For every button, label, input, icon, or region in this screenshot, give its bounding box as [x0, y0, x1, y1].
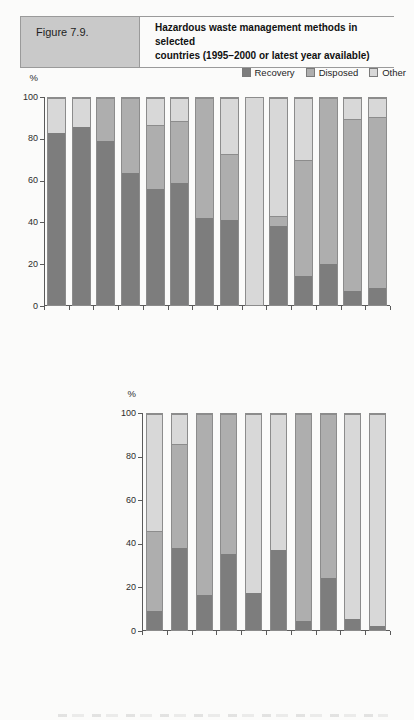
recovery-segment	[196, 218, 213, 305]
y-tick-mark	[40, 264, 44, 265]
cropped-text-remnant	[58, 714, 388, 717]
y-axis-unit-label: %	[110, 388, 136, 399]
y-tick-mark	[138, 587, 142, 588]
recovery-segment	[369, 288, 386, 305]
legend-item-disposed: Disposed	[306, 67, 359, 78]
x-tick-mark	[365, 306, 366, 310]
y-tick-label: 0	[12, 301, 38, 311]
recovery-swatch-icon	[242, 68, 251, 77]
disposed-segment	[97, 98, 114, 141]
y-tick-mark	[138, 413, 142, 414]
y-tick-label: 60	[110, 495, 136, 505]
other-segment	[172, 414, 187, 444]
y-tick-label: 80	[110, 451, 136, 461]
stacked-bar	[146, 413, 163, 631]
x-tick-mark	[192, 306, 193, 310]
stacked-bar	[295, 413, 312, 631]
y-tick-label: 20	[12, 259, 38, 269]
y-tick-label: 0	[110, 626, 136, 636]
x-tick-mark	[217, 306, 218, 310]
other-swatch-icon	[369, 68, 378, 77]
other-segment	[221, 98, 238, 154]
recovery-segment	[321, 578, 336, 630]
disposed-segment	[197, 414, 212, 595]
legend-item-other: Other	[369, 67, 406, 78]
recovery-segment	[271, 550, 286, 630]
recovery-segment	[122, 173, 139, 305]
figure-title-line2: countries (1995–2000 or latest year avai…	[155, 50, 370, 61]
x-tick-mark	[291, 306, 292, 310]
stacked-bar	[121, 97, 140, 306]
legend-label-other: Other	[382, 67, 406, 78]
disposed-segment	[147, 531, 162, 611]
y-tick-mark	[138, 544, 142, 545]
y-tick-mark	[40, 181, 44, 182]
stacked-bar	[195, 97, 214, 306]
disposed-segment	[270, 216, 287, 226]
recovery-segment	[97, 141, 114, 305]
x-tick-mark	[241, 631, 242, 635]
other-segment	[369, 98, 386, 117]
stacked-bar	[245, 97, 264, 306]
stacked-bar	[294, 97, 313, 306]
stacked-bar	[270, 413, 287, 631]
x-tick-mark	[216, 631, 217, 635]
recovery-segment	[345, 619, 360, 630]
stacked-bar	[171, 413, 188, 631]
recovery-segment	[296, 621, 311, 630]
other-segment	[345, 414, 360, 619]
stacked-bar	[344, 413, 361, 631]
recovery-segment	[73, 127, 90, 305]
y-tick-mark	[138, 457, 142, 458]
other-segment	[73, 98, 90, 127]
other-segment	[344, 98, 361, 119]
y-tick-label: 100	[110, 408, 136, 418]
stacked-bar	[369, 413, 386, 631]
disposed-segment	[321, 414, 336, 578]
disposed-segment	[171, 121, 188, 183]
recovery-segment	[370, 626, 385, 630]
y-tick-label: 60	[12, 175, 38, 185]
stacked-bar	[220, 97, 239, 306]
disposed-segment	[296, 414, 311, 621]
stacked-bar	[368, 97, 387, 306]
disposed-segment	[369, 117, 386, 289]
y-tick-mark	[138, 500, 142, 501]
y-tick-label: 100	[12, 92, 38, 102]
disposed-segment	[221, 154, 238, 220]
x-tick-mark	[341, 306, 342, 310]
recovery-segment	[270, 226, 287, 305]
stacked-bar	[343, 97, 362, 306]
figure-number-box: Figure 7.9.	[20, 17, 140, 67]
other-segment	[171, 98, 188, 121]
other-segment	[270, 98, 287, 216]
figure-header: Figure 7.9. Hazardous waste management m…	[20, 16, 394, 68]
recovery-segment	[246, 593, 261, 630]
disposed-segment	[295, 160, 312, 276]
y-tick-label: 40	[110, 538, 136, 548]
recovery-segment	[147, 189, 164, 305]
disposed-segment	[122, 98, 139, 173]
recovery-segment	[320, 264, 337, 305]
recovery-segment	[221, 554, 236, 630]
other-segment	[147, 414, 162, 531]
other-segment	[246, 98, 263, 305]
stacked-bar	[319, 97, 338, 306]
y-tick-label: 80	[12, 133, 38, 143]
other-segment	[370, 414, 385, 626]
disposed-segment	[147, 125, 164, 189]
x-tick-mark	[118, 306, 119, 310]
figure-title-line1: Hazardous waste management methods in se…	[155, 22, 357, 47]
figure-title: Hazardous waste management methods in se…	[140, 17, 394, 67]
disposed-segment	[320, 98, 337, 264]
y-axis-unit-label: %	[12, 72, 38, 83]
x-tick-mark	[291, 631, 292, 635]
x-tick-mark	[168, 306, 169, 310]
x-tick-mark	[143, 306, 144, 310]
x-tick-mark	[167, 631, 168, 635]
x-tick-mark	[365, 631, 366, 635]
x-tick-mark	[142, 631, 143, 635]
x-tick-mark	[390, 631, 391, 635]
disposed-segment	[196, 98, 213, 218]
stacked-bar	[146, 97, 165, 306]
